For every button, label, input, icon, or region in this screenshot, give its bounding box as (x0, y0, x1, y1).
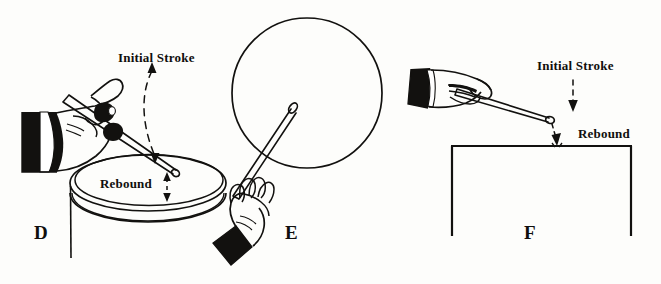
panel-f-group (408, 68, 632, 236)
rebound-dashed-arrow-icon (552, 124, 563, 147)
panel-f-initial-stroke-label: Initial Stroke (537, 58, 614, 74)
panel-f-label: F (524, 222, 536, 244)
panel-d-rebound-label: Rebound (100, 176, 152, 192)
rebound-dashed-arrow-icon (163, 172, 171, 202)
panel-d-initial-stroke-label: Initial Stroke (118, 50, 195, 66)
panel-e-label: E (285, 222, 298, 244)
figure-canvas: Initial Stroke Rebound D E Initial Strok… (0, 0, 661, 284)
panel-f-rebound-label: Rebound (578, 126, 630, 142)
drumstick-icon (233, 101, 299, 199)
table-icon (451, 146, 632, 236)
panel-d-group (22, 62, 226, 258)
illustration-svg (0, 0, 661, 284)
drumstick-icon (455, 89, 555, 125)
stroke-dashed-arrow-icon (568, 80, 578, 112)
drum-circle-icon (232, 18, 382, 168)
drum-icon (70, 155, 226, 259)
panel-d-label: D (34, 222, 48, 244)
